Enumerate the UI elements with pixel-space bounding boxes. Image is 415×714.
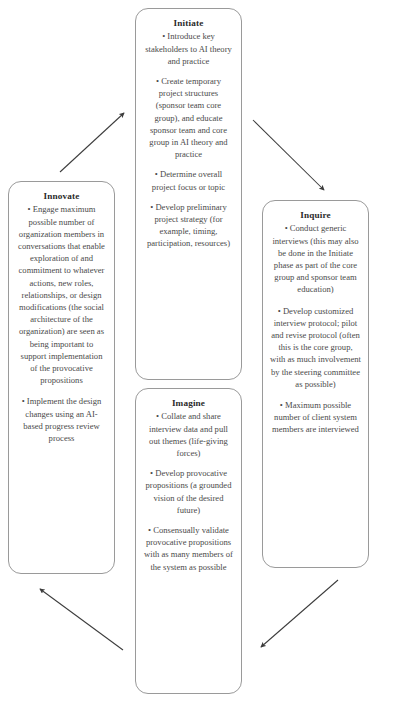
arrow-innovate-to-initiate — [60, 113, 124, 172]
bullet-list-inquire: Conduct generic interviews (this may als… — [270, 222, 361, 435]
arrow-imagine-to-innovate — [40, 589, 123, 650]
phase-box-initiate: Initiate Introduce key stakeholders to A… — [135, 8, 242, 380]
arrow-inquire-to-imagine — [261, 580, 338, 647]
bullet-item: Develop customized interview protocol; p… — [270, 305, 361, 390]
bullet-list-innovate: Engage maximum possible number of organi… — [16, 203, 107, 444]
bullet-item: Develop preliminary project strategy (fo… — [143, 201, 234, 250]
phase-box-imagine: Imagine Collate and share interview data… — [135, 388, 242, 694]
phase-box-innovate: Innovate Engage maximum possible number … — [8, 181, 115, 574]
bullet-item: Implement the design changes using an AI… — [16, 395, 107, 444]
bullet-item: Consensually validate provocative propos… — [143, 524, 234, 573]
bullet-item: Engage maximum possible number of organi… — [16, 203, 107, 386]
phase-title-inquire: Inquire — [270, 209, 361, 221]
bullet-item: Introduce key stakeholders to AI theory … — [143, 30, 234, 67]
bullet-list-initiate: Introduce key stakeholders to AI theory … — [143, 30, 234, 249]
arrow-initiate-to-inquire — [253, 120, 324, 190]
bullet-item: Determine overall project focus or topic — [143, 168, 234, 192]
bullet-item: Maximum possible number of client system… — [270, 399, 361, 436]
bullet-item: Conduct generic interviews (this may als… — [270, 222, 361, 295]
diagram-canvas: Initiate Introduce key stakeholders to A… — [0, 0, 415, 714]
bullet-item: Collate and share interview data and pul… — [143, 410, 234, 459]
bullet-list-imagine: Collate and share interview data and pul… — [143, 410, 234, 572]
bullet-item: Create temporary project structures (spo… — [143, 75, 234, 160]
phase-box-inquire: Inquire Conduct generic interviews (this… — [262, 200, 369, 568]
phase-title-imagine: Imagine — [143, 397, 234, 409]
phase-title-initiate: Initiate — [143, 17, 234, 29]
bullet-item: Develop provocative propositions (a grou… — [143, 467, 234, 516]
phase-title-innovate: Innovate — [16, 190, 107, 202]
